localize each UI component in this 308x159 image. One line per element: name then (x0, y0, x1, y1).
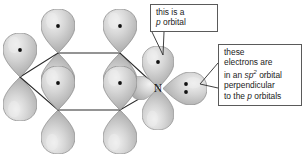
callout-sp2-line5-post: orbitals (252, 91, 281, 101)
figure-canvas: N this is a p orbital these electrons ar… (0, 0, 308, 159)
lobe-lower-c6 (41, 110, 75, 154)
callout-sp2-orbital: these electrons are in an sp2 orbital pe… (218, 44, 302, 106)
electron-dot-c5 (118, 81, 122, 85)
callout-sp2-line5-pre: to the (224, 91, 247, 101)
electron-dot-c6 (56, 81, 60, 85)
lobe-upper-c2 (41, 9, 75, 53)
electron-dot-c2 (56, 24, 60, 28)
electron-dot-lonepair-bottom (184, 90, 188, 94)
lobe-lower-c1 (3, 77, 37, 121)
electron-dot-lonepair-top (184, 82, 188, 86)
callout-p-orbital-word: orbital (161, 17, 186, 27)
callout-sp2-line4: perpendicular (224, 80, 297, 90)
callout-sp2-line3: in an sp2 orbital (224, 67, 297, 80)
callout-sp2-line3-pre: in an (224, 70, 245, 80)
callout-p-line2: p orbital (156, 17, 213, 27)
electron-dot-c3 (118, 24, 122, 28)
electron-dot-n1-p (156, 60, 160, 64)
callout-sp2-line1: these (224, 47, 297, 57)
callout-sp2-line2: electrons are (224, 57, 297, 67)
leader-sp2-a (200, 63, 218, 84)
electron-dot-c1 (18, 48, 22, 52)
lobe-upper-c1 (3, 33, 37, 77)
atom-label-nitrogen: N (154, 82, 163, 94)
lobe-lower-c5 (103, 110, 137, 154)
lobe-upper-c3 (103, 9, 137, 53)
callout-sp2-line5: to the p orbitals (224, 91, 297, 101)
callout-p-orbital: this is a p orbital (150, 4, 218, 32)
lobe-sp2-lonepair (163, 72, 207, 105)
callout-p-line1: this is a (156, 7, 213, 17)
lobe-upper-c6 (41, 66, 75, 110)
callout-sp2-line3-post: orbital (257, 70, 282, 80)
